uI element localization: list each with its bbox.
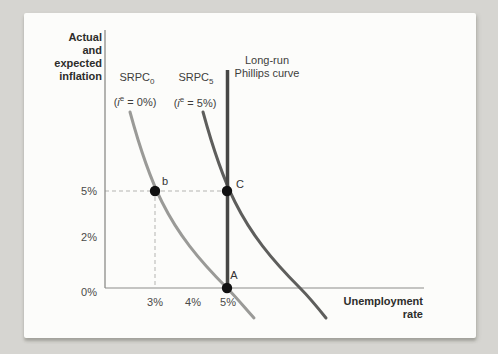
point-c-dot <box>222 186 232 196</box>
srpc0-curve <box>130 112 254 318</box>
point-a-dot <box>222 283 232 293</box>
page-background: Actual and expected inflation SRPC0 (ie … <box>0 0 498 354</box>
phillips-curve-plot <box>24 13 476 338</box>
figure-panel: Actual and expected inflation SRPC0 (ie … <box>24 13 476 338</box>
point-b-dot <box>150 186 160 196</box>
srpc5-curve <box>203 112 326 318</box>
